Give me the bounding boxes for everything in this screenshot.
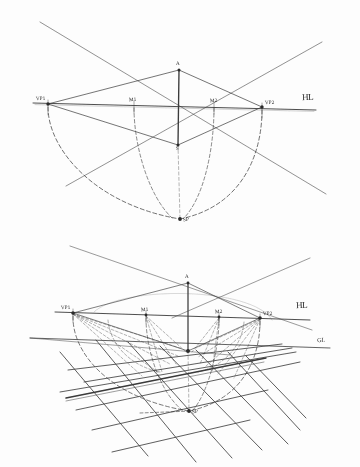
dashed-ray-l2 [73,314,178,356]
dashed-baseline-sp [140,411,192,413]
ground-line [30,338,330,348]
node-apex [178,69,181,72]
dashed-ray-r3 [206,319,260,366]
dashed-ray-m2a [192,318,219,352]
dashed-ray-r1 [196,319,260,348]
label-horizon-line: HL [302,92,314,103]
vertical-axis-extension-2 [188,351,189,411]
label-vp-right: VP2 [265,99,275,105]
arc-mleft-to-sp [134,108,172,218]
dashed-ray-m2c [212,318,219,372]
edge-apex-vpright-2 [188,283,260,318]
node-m-right-2 [218,316,221,319]
node-vp-right-2 [258,316,262,320]
edge-vpleft-station [48,104,178,145]
grid-family-right [60,344,300,452]
node-apex-2 [187,282,190,285]
figure-bottom-group [30,246,330,462]
horizon-line-shadow [35,105,314,112]
arc-vpleft-to-sp-2 [73,316,189,411]
label-measure-right: M2 [210,97,218,103]
construction-line-ascending [66,42,322,186]
edge-center-vpright-2 [188,318,260,351]
dashed-ray-l3 [73,314,170,364]
edge-apex-vpright [179,70,262,107]
label-measure-left: M1 [129,96,137,102]
grid-ridge-line-2 [66,362,264,401]
label-measure-right-2: M2 [215,308,223,314]
node-station-point [178,217,182,221]
label-measure-left-2: M1 [141,306,149,312]
dashed-ray-m1b [146,316,176,364]
label-station-point-2: SP [192,408,198,414]
dashed-ray-l5 [73,314,142,376]
label-vp-left: VP1 [36,95,46,101]
label-ground-line: GL [317,336,326,343]
arc-mright-to-sp-2 [193,319,219,410]
arc-vpleft-to-sp [48,107,180,219]
label-horizon-line-2: HL [296,300,308,311]
vertical-axis-extension [178,145,180,219]
label-vp-left-2: VP1 [61,304,71,310]
grid-ridge-line [66,358,266,398]
figure-top-group [33,22,326,221]
drawing-sheet: VP1 VP2 M1 M2 A S SP HL VP1 VP2 M1 M2 A … [0,0,360,467]
node-center-2 [186,349,190,353]
vertical-axis [178,70,179,145]
construction-line-descending-2 [70,246,312,330]
label-vp-right-2: VP2 [263,310,273,316]
grid-family-left [60,340,306,462]
dashed-ray-r2 [198,319,260,357]
node-station-point-2 [187,409,191,413]
arc-mright-to-sp [184,108,214,218]
node-vp-right [260,105,263,108]
arc-vpright-to-sp [180,110,262,219]
edge-vpleft-apex-2 [73,283,188,313]
edge-vpleft-apex [48,70,179,104]
label-station-point: SP [183,216,189,222]
label-apex: A [176,60,180,66]
node-vp-left-2 [71,311,75,315]
dashed-ray-m1a [146,316,186,352]
node-vp-left [46,102,49,105]
label-station: S [176,145,179,151]
sketch-canvas [0,0,360,467]
label-apex-2: A [185,273,189,279]
node-m-left-2 [145,314,148,317]
